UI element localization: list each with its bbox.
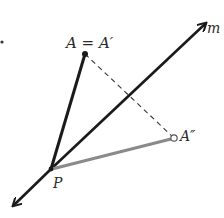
- label-P: P: [52, 175, 63, 191]
- segment-P-A2: [52, 139, 171, 169]
- label-A2: A″: [178, 128, 196, 144]
- stray-dot: [0, 40, 3, 43]
- point-A2: [171, 135, 177, 141]
- point-P: [49, 167, 54, 172]
- reflection-diagram: A = A′ P A″ m: [0, 0, 224, 218]
- label-A: A = A′: [64, 34, 114, 52]
- line-m-lower: [14, 169, 51, 205]
- label-m: m: [207, 20, 220, 36]
